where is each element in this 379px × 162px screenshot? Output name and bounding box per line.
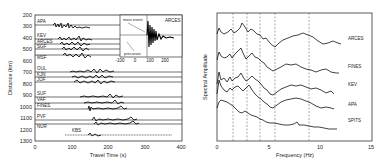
x-axis-label: Travel Time (s) [90, 152, 127, 158]
svg-text:1000: 1000 [20, 104, 32, 110]
x-axis-label: Frequency (Hz) [276, 152, 314, 158]
y-axis-label: Spectral Amplitude [202, 54, 208, 100]
svg-text:JOF: JOF [37, 77, 46, 82]
svg-text:800: 800 [23, 81, 32, 87]
svg-text:VAF: VAF [37, 97, 46, 102]
svg-text:-100: -100 [115, 58, 125, 63]
spectra-curves [217, 23, 341, 129]
svg-text:700: 700 [23, 69, 32, 75]
svg-text:OUL: OUL [37, 66, 47, 71]
svg-text:200: 200 [23, 12, 32, 18]
svg-text:0: 0 [33, 144, 36, 150]
svg-text:PVF: PVF [37, 114, 46, 119]
svg-text:300: 300 [140, 144, 149, 150]
svg-text:1200: 1200 [20, 127, 32, 133]
svg-text:900: 900 [23, 92, 32, 98]
svg-text:ARCES: ARCES [348, 36, 364, 41]
svg-text:400: 400 [176, 144, 185, 150]
record-section-chart: 200 300 400 500 600 700 800 900 1000 110… [0, 0, 190, 162]
svg-text:15: 15 [368, 144, 374, 150]
svg-text:APA: APA [348, 102, 357, 107]
svg-text:1100: 1100 [20, 115, 32, 121]
svg-text:main event: main event [123, 17, 143, 22]
svg-text:0: 0 [215, 144, 218, 150]
svg-text:100: 100 [67, 144, 76, 150]
svg-text:FINES: FINES [37, 103, 50, 108]
svg-text:precursor: precursor [124, 51, 142, 56]
svg-text:ARCES: ARCES [165, 18, 181, 23]
svg-text:APA: APA [37, 19, 46, 24]
svg-text:200: 200 [103, 144, 112, 150]
y-axis-label: Distance (km) [7, 61, 13, 95]
inset-arces: ARCES main event precursor -100 0 100 20… [115, 15, 182, 63]
svg-text:KEV: KEV [348, 82, 357, 87]
svg-text:MSF: MSF [37, 55, 47, 60]
dashed-reference-lines [233, 13, 309, 141]
y-axis: 200 300 400 500 600 700 800 900 1000 110… [20, 12, 32, 144]
svg-text:KBS: KBS [72, 128, 81, 133]
svg-text:1300: 1300 [20, 138, 32, 144]
svg-text:100: 100 [146, 58, 154, 63]
svg-text:FINES: FINES [348, 64, 361, 69]
svg-text:400: 400 [23, 35, 32, 41]
svg-text:0: 0 [134, 58, 137, 63]
svg-text:5: 5 [267, 144, 270, 150]
svg-text:10: 10 [317, 144, 323, 150]
x-axis: 0 100 200 300 400 [33, 144, 185, 150]
svg-text:SUF: SUF [37, 91, 46, 96]
spectra-chart: ARCES FINES KEV APA SPITS 0 5 10 15 Freq… [190, 0, 379, 162]
svg-text:500: 500 [23, 46, 32, 52]
svg-text:SPITS: SPITS [348, 118, 361, 123]
svg-text:300: 300 [23, 23, 32, 29]
svg-text:SGF: SGF [37, 44, 47, 49]
x-axis: 0 5 10 15 [215, 144, 374, 150]
svg-text:KEV: KEV [37, 33, 46, 38]
svg-text:600: 600 [23, 58, 32, 64]
svg-text:200: 200 [161, 58, 169, 63]
svg-text:NUR: NUR [37, 124, 47, 129]
series-labels: ARCES FINES KEV APA SPITS [348, 36, 364, 123]
